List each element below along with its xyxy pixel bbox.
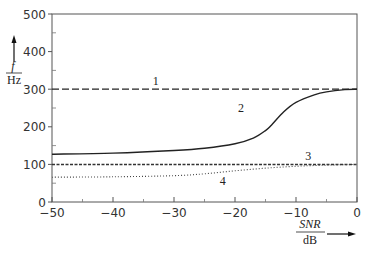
x-tick-label: −40 — [100, 206, 125, 220]
x-tick-label: 0 — [353, 206, 361, 220]
y-axis-arrowhead-icon — [12, 35, 17, 43]
plot-frame — [52, 14, 357, 202]
x-axis-arrowhead-icon — [348, 232, 356, 237]
curve-label-4: 4 — [220, 174, 226, 188]
y-label-numerator: f — [11, 59, 16, 73]
curve-label-3: 3 — [305, 149, 311, 163]
x-axis-label: SNR dB — [296, 217, 356, 247]
x-tick-label: −50 — [39, 206, 64, 220]
series-line-2 — [52, 89, 357, 154]
y-tick-label: 500 — [23, 8, 46, 22]
tick-labels: 0100200300400500−50−40−30−20−100 — [23, 8, 361, 221]
curve-label-1: 1 — [153, 74, 159, 88]
curve-label-2: 2 — [238, 101, 244, 115]
y-tick-label: 400 — [23, 45, 46, 59]
chart: 0100200300400500−50−40−30−20−100 1234 f … — [0, 0, 367, 253]
x-tick-label: −20 — [222, 206, 247, 220]
y-tick-label: 300 — [23, 83, 46, 97]
axes-frame — [52, 14, 357, 202]
x-label-denominator: dB — [303, 233, 317, 247]
data-series — [52, 89, 357, 177]
series-line-4 — [52, 164, 357, 177]
x-tick-label: −30 — [161, 206, 186, 220]
y-label-denominator: Hz — [7, 73, 21, 87]
y-tick-label: 200 — [23, 120, 46, 134]
x-label-numerator: SNR — [299, 217, 321, 231]
y-tick-label: 100 — [23, 158, 46, 172]
y-axis-label: f Hz — [6, 35, 22, 87]
